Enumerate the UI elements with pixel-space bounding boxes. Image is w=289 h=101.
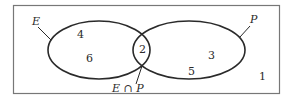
set-p-label: P xyxy=(250,14,257,25)
universe-rectangle xyxy=(14,6,280,94)
e-only-value-2: 6 xyxy=(86,53,93,64)
intersection-value: 2 xyxy=(139,44,146,55)
set-e-label: E xyxy=(32,16,40,27)
e-only-value-1: 4 xyxy=(77,29,84,40)
p-only-value-1: 3 xyxy=(208,50,215,61)
p-only-value-2: 5 xyxy=(188,66,195,77)
intersection-label: E ∩ P xyxy=(112,83,144,94)
outside-value: 1 xyxy=(259,71,266,82)
